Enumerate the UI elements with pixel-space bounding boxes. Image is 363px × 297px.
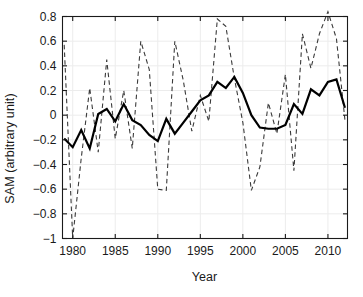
plot-background <box>63 17 348 239</box>
x-axis-label: Year <box>62 270 347 284</box>
y-tick-label: −0.2 <box>33 133 57 147</box>
y-tick-label: 0.2 <box>40 84 57 98</box>
chart-svg: −1−0.8−0.6−0.4−0.200.20.40.60.8198019851… <box>0 0 363 297</box>
x-tick-label: 1980 <box>59 244 86 258</box>
x-tick-label: 1985 <box>102 244 129 258</box>
y-tick-label: −1 <box>43 232 57 246</box>
x-tick-label: 2000 <box>230 244 257 258</box>
y-tick-label: −0.6 <box>33 182 57 196</box>
x-tick-label: 1990 <box>144 244 171 258</box>
x-tick-label: 2010 <box>315 244 342 258</box>
plot-area: −1−0.8−0.6−0.4−0.200.20.40.60.8198019851… <box>0 0 363 297</box>
y-tick-label: 0.4 <box>40 59 57 73</box>
y-tick-label: −0.4 <box>33 158 57 172</box>
y-tick-label: −0.8 <box>33 207 57 221</box>
x-tick-label: 2005 <box>272 244 299 258</box>
y-tick-label: 0.6 <box>40 34 57 48</box>
y-tick-label: 0 <box>50 108 57 122</box>
y-tick-label: 0.8 <box>40 10 57 24</box>
chart-figure: SAM (arbitrary unit) −1−0.8−0.6−0.4−0.20… <box>0 0 363 297</box>
x-tick-label: 1995 <box>187 244 214 258</box>
x-axis-label-text: Year <box>192 270 217 284</box>
